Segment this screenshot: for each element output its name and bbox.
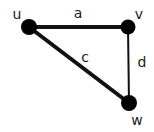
edge-label-c: c <box>81 49 89 65</box>
edge-label-d: d <box>138 54 147 70</box>
node-label-w: w <box>131 112 142 128</box>
edge-label-a: a <box>74 5 83 21</box>
graph-diagram: u v w a c d <box>0 0 154 132</box>
node-u <box>21 19 37 35</box>
edge-c <box>29 27 129 103</box>
node-v <box>121 20 136 35</box>
node-label-u: u <box>13 6 22 22</box>
edge-d <box>128 27 129 103</box>
node-w <box>121 95 137 111</box>
node-label-v: v <box>135 6 143 22</box>
edges <box>29 27 129 103</box>
